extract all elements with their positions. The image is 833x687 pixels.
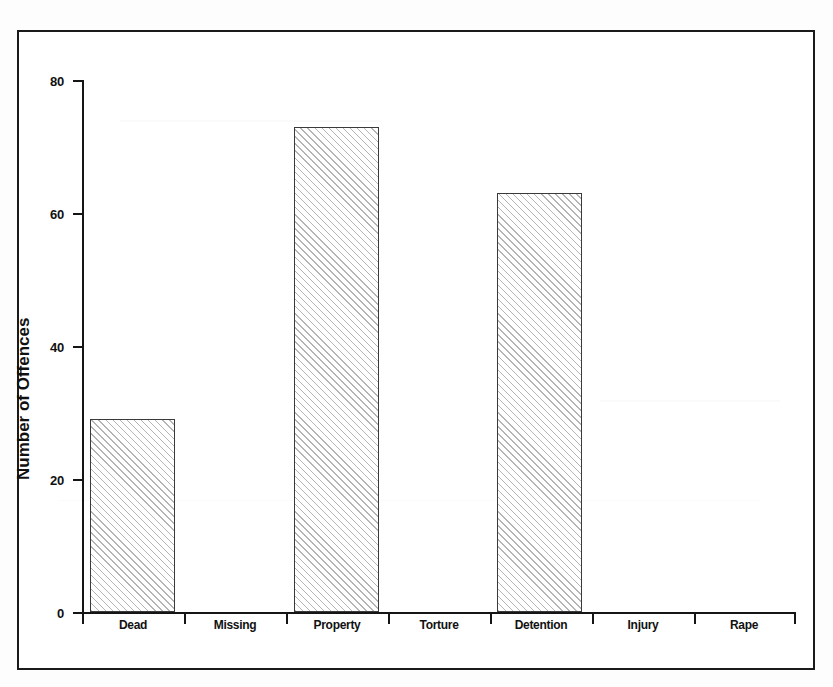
y-tick-40 (73, 346, 82, 348)
x-tick-end (794, 614, 796, 624)
bar-property (294, 127, 379, 612)
x-label-torture: Torture (419, 618, 458, 632)
x-label-property: Property (314, 618, 361, 632)
y-tick-20 (73, 479, 82, 481)
x-tick-3 (388, 614, 390, 624)
y-tick-0 (73, 612, 82, 614)
y-tick-label-40: 40 (30, 340, 64, 355)
x-tick-5 (592, 614, 594, 624)
bar-dead (90, 419, 175, 612)
y-axis-line (82, 80, 84, 614)
x-tick-1 (184, 614, 186, 624)
y-tick-80 (73, 80, 82, 82)
x-label-injury: Injury (628, 618, 659, 632)
y-tick-label-20: 20 (30, 473, 64, 488)
x-tick-6 (694, 614, 696, 624)
x-label-dead: Dead (119, 618, 147, 632)
y-tick-60 (73, 213, 82, 215)
y-tick-label-0: 0 (30, 606, 64, 621)
x-tick-2 (286, 614, 288, 624)
x-label-missing: Missing (214, 618, 257, 632)
x-axis-line (82, 612, 796, 614)
x-label-rape: Rape (730, 618, 758, 632)
y-tick-label-60: 60 (30, 207, 64, 222)
y-tick-label-80: 80 (30, 74, 64, 89)
x-label-detention: Detention (515, 618, 568, 632)
x-tick-start (82, 614, 84, 624)
chart-page: 80 60 40 20 0 Number of Offences (0, 0, 833, 687)
y-axis-title: Number of Offences (14, 318, 34, 480)
plot-area: 80 60 40 20 0 Number of Offences (0, 0, 833, 687)
x-tick-4 (490, 614, 492, 624)
bar-detention (497, 193, 582, 612)
